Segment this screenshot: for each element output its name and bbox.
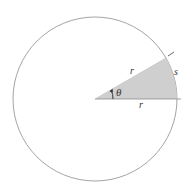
circle-sector-diagram: θ r r s xyxy=(0,0,192,194)
angle-label: θ xyxy=(116,86,122,98)
shaded-sector xyxy=(95,58,177,99)
arc-end-tick xyxy=(168,52,174,56)
radius-label-lower: r xyxy=(139,99,143,110)
radius-label-upper: r xyxy=(130,65,134,76)
arc-label: s xyxy=(174,66,178,77)
